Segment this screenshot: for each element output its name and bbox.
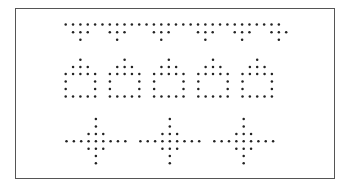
dot xyxy=(271,80,274,83)
dot xyxy=(160,73,163,76)
dot xyxy=(169,125,172,128)
dot xyxy=(147,140,150,143)
dot xyxy=(250,147,253,150)
dot xyxy=(131,73,134,76)
dot xyxy=(197,73,200,76)
dot xyxy=(64,23,67,26)
dot xyxy=(160,66,163,69)
dot xyxy=(198,140,201,143)
dot xyxy=(285,31,288,34)
cross-shape xyxy=(65,118,126,165)
dot xyxy=(212,73,215,76)
dot xyxy=(263,73,266,76)
dot xyxy=(197,31,200,34)
dot xyxy=(116,66,119,69)
dot xyxy=(271,95,274,98)
house-shape xyxy=(153,58,185,97)
dot xyxy=(182,23,185,26)
dot xyxy=(219,95,222,98)
dot xyxy=(169,133,172,136)
dot xyxy=(204,73,207,76)
dot xyxy=(145,23,148,26)
dot xyxy=(64,73,67,76)
dot xyxy=(234,23,237,26)
dot xyxy=(131,23,134,26)
dot xyxy=(278,31,281,34)
dot xyxy=(271,88,274,91)
dot xyxy=(226,73,229,76)
dot xyxy=(87,23,90,26)
dot xyxy=(169,140,172,143)
dot xyxy=(73,140,76,143)
dot xyxy=(182,80,185,83)
dot xyxy=(169,147,172,150)
dot xyxy=(235,147,238,150)
dot xyxy=(72,66,75,69)
dot xyxy=(249,73,252,76)
dot xyxy=(116,95,119,98)
dot xyxy=(213,140,216,143)
dot xyxy=(204,23,207,26)
dot xyxy=(263,23,266,26)
dot xyxy=(226,88,229,91)
dot xyxy=(242,147,245,150)
dot xyxy=(226,80,229,83)
dot xyxy=(241,88,244,91)
dot xyxy=(168,95,171,98)
dot xyxy=(189,23,192,26)
house-shape xyxy=(241,58,273,97)
dot xyxy=(101,23,104,26)
dot xyxy=(197,23,200,26)
cross-shape xyxy=(139,118,200,165)
dot-pattern-canvas xyxy=(0,0,349,187)
dot xyxy=(72,31,75,34)
dot xyxy=(109,88,112,91)
dot xyxy=(64,88,67,91)
dot xyxy=(72,23,75,26)
dot xyxy=(95,118,98,121)
dot xyxy=(94,88,97,91)
dot xyxy=(175,23,178,26)
dot xyxy=(204,95,207,98)
dot xyxy=(153,80,156,83)
dot xyxy=(153,73,156,76)
dot xyxy=(182,95,185,98)
dot xyxy=(116,23,119,26)
triangle-border-row xyxy=(64,23,287,41)
dot xyxy=(95,162,98,165)
dot xyxy=(242,162,245,165)
dot xyxy=(154,140,157,143)
dot xyxy=(191,140,194,143)
dot xyxy=(123,58,126,61)
dot xyxy=(167,23,170,26)
dot xyxy=(94,73,97,76)
dot xyxy=(219,66,222,69)
dot xyxy=(265,140,268,143)
dot xyxy=(197,80,200,83)
dot xyxy=(109,31,112,34)
dot xyxy=(212,58,215,61)
dot xyxy=(271,73,274,76)
house-shape xyxy=(64,58,96,97)
dot xyxy=(242,118,245,121)
dot xyxy=(167,31,170,34)
dot xyxy=(241,80,244,83)
dot xyxy=(204,31,207,34)
dot xyxy=(248,31,251,34)
dot xyxy=(169,155,172,158)
dot xyxy=(161,133,164,136)
dot xyxy=(256,58,259,61)
dot xyxy=(219,73,222,76)
dot xyxy=(87,140,90,143)
dot xyxy=(79,58,82,61)
dot xyxy=(116,38,119,41)
dot xyxy=(87,66,90,69)
dot xyxy=(175,73,178,76)
dot xyxy=(131,66,134,69)
dot xyxy=(123,73,126,76)
house-shape xyxy=(109,58,141,97)
dot xyxy=(65,140,68,143)
dot xyxy=(235,140,238,143)
dot xyxy=(182,73,185,76)
dot xyxy=(204,66,207,69)
